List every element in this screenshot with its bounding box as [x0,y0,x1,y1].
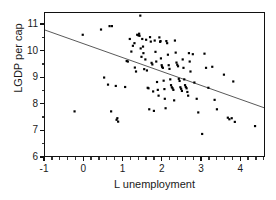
data-point [223,74,225,76]
data-point [140,47,142,49]
data-point [216,108,218,110]
data-point [231,117,233,119]
data-point [145,39,147,41]
data-point [175,52,177,54]
y-axis-tick-label: 9 [32,70,38,83]
data-point [228,118,230,120]
data-point [180,88,182,90]
data-point [232,80,234,82]
data-point [164,107,166,109]
data-point [138,35,140,37]
data-point [193,81,195,83]
x-axis-tick-label: 0 [69,163,97,174]
data-point [156,81,158,83]
regression-line [45,30,264,108]
data-point [189,60,191,62]
plot-area [45,13,264,156]
data-point [157,89,159,91]
data-point [162,67,164,69]
data-point [140,56,142,58]
data-point [152,90,154,92]
data-point [142,46,144,48]
data-point [103,76,105,78]
data-point [151,63,153,65]
data-point [175,62,177,64]
data-point [182,67,184,69]
data-point [197,111,199,113]
data-point [82,34,84,36]
data-point [163,88,165,90]
data-point [149,36,151,38]
data-point [100,28,102,30]
data-point [160,57,162,59]
data-point [110,110,112,112]
data-point [189,70,191,72]
data-point [154,51,156,53]
data-point [179,80,181,82]
data-point [127,60,129,62]
scatter-plot-figure: 67891011 LGDP per cap -101234 L unemploy… [0,0,276,200]
data-point [168,68,170,70]
data-point [142,52,144,54]
data-point [254,125,256,127]
data-point [168,64,170,66]
data-point [166,42,168,44]
data-point [116,117,118,119]
data-point [174,39,176,41]
data-point [115,85,117,87]
y-axis-tick-label: 10 [27,44,38,57]
data-point [173,99,175,101]
data-point [178,78,180,80]
data-point [133,42,135,44]
data-point [144,58,146,60]
data-point [141,38,143,40]
x-axis-ticks: -101234 [44,157,265,177]
data-point [111,25,113,27]
data-point [183,78,185,80]
plot-frame [44,12,265,157]
x-axis-tick-label: -1 [30,163,58,174]
y-axis-tick-label: 7 [32,123,38,136]
data-point [201,133,203,135]
x-axis-tick-label: 1 [109,163,137,174]
data-point [154,39,156,41]
data-point [134,66,136,68]
data-point [214,99,216,101]
x-axis-tick-label: 4 [226,163,254,174]
data-point [196,98,198,100]
data-point [167,54,169,56]
data-point [117,121,119,123]
data-point [203,53,205,55]
data-point [207,87,209,89]
data-point [188,52,190,54]
data-point [155,60,157,62]
x-axis-tick-label: 3 [187,163,215,174]
data-point [159,40,161,42]
y-axis-tick-label: 11 [28,17,38,30]
data-point [150,41,152,43]
data-point [158,36,160,38]
data-point [153,110,155,112]
y-axis-label: LGDP per cap [12,3,24,113]
data-point [172,89,174,91]
data-point [186,91,188,93]
data-point [185,87,187,89]
data-point [108,25,110,27]
data-point [148,108,150,110]
data-point [147,87,149,89]
data-point [130,50,132,52]
data-point [182,58,184,60]
data-point [135,70,137,72]
data-point [139,15,141,17]
x-axis-tick-label: 2 [148,163,176,174]
data-point [187,95,189,97]
data-point [234,121,236,123]
data-point [129,38,131,40]
data-point [165,40,167,42]
data-point [192,53,194,55]
data-point [205,67,207,69]
data-point [163,80,165,82]
scatter-canvas [45,13,264,156]
data-point [146,69,148,71]
data-point [181,90,183,92]
